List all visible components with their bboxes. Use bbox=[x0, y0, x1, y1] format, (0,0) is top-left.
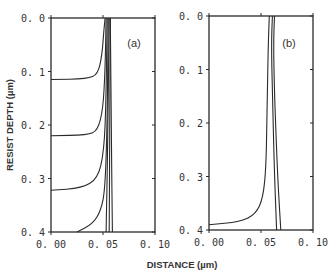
x-tick-label: 0. 10 bbox=[298, 237, 328, 248]
y-tick-label: 0. 0 bbox=[21, 13, 45, 24]
x-axis-label: DISTANCE (µm) bbox=[147, 259, 218, 270]
resist-profile-figure: 0. 00. 10. 20. 30. 40. 000. 050. 10(a)0.… bbox=[0, 0, 332, 276]
y-tick-label: 0. 1 bbox=[179, 65, 203, 76]
profile-curve bbox=[51, 18, 105, 80]
x-tick-label: 0. 05 bbox=[246, 237, 276, 248]
profile-curve bbox=[51, 18, 107, 190]
y-tick-label: 0. 2 bbox=[21, 120, 45, 131]
profile-curve bbox=[209, 16, 269, 225]
y-axis-label: RESIST DEPTH (µm) bbox=[4, 79, 15, 171]
y-tick-label: 0. 1 bbox=[21, 67, 45, 78]
panel-a: 0. 00. 10. 20. 30. 40. 000. 050. 10(a) bbox=[21, 13, 170, 250]
panel-label: (b) bbox=[282, 37, 295, 49]
x-tick-label: 0. 10 bbox=[140, 239, 170, 250]
y-tick-label: 0. 4 bbox=[179, 225, 203, 236]
panel-b: 0. 00. 10. 20. 30. 40. 000. 050. 10(b) bbox=[179, 11, 328, 248]
profile-curve bbox=[51, 18, 106, 136]
profile-curve bbox=[77, 18, 108, 232]
y-tick-label: 0. 3 bbox=[179, 172, 203, 183]
profile-curve bbox=[110, 18, 112, 232]
profile-curve bbox=[274, 16, 281, 230]
y-tick-label: 0. 4 bbox=[21, 227, 45, 238]
y-tick-label: 0. 3 bbox=[21, 174, 45, 185]
x-tick-label: 0. 05 bbox=[88, 239, 118, 250]
y-tick-label: 0. 2 bbox=[179, 118, 203, 129]
panel-label: (a) bbox=[127, 37, 140, 49]
y-tick-label: 0. 0 bbox=[179, 11, 203, 22]
plot-frame bbox=[209, 16, 313, 230]
x-tick-label: 0. 00 bbox=[36, 239, 66, 250]
x-tick-label: 0. 00 bbox=[194, 237, 224, 248]
